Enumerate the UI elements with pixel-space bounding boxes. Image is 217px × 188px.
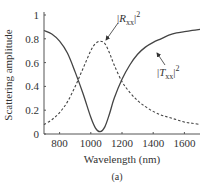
x-tick-label: 1600 <box>173 137 196 149</box>
y-tick-label: 0.2 <box>25 104 39 116</box>
figure-caption: (a) <box>111 171 122 183</box>
y-tick-label: 0 <box>34 128 40 140</box>
t-xx-annotation-label: |Txx|2 <box>157 64 180 81</box>
t-xx-annotation-arrow <box>157 53 165 65</box>
y-tick-label: 0.6 <box>25 57 39 69</box>
annotations: |Rxx|2|Txx|2 <box>106 10 180 81</box>
y-tick-label: 1 <box>34 9 40 21</box>
r-xx-annotation-label: |Rxx|2 <box>117 10 140 27</box>
x-tick-label: 1000 <box>80 137 103 149</box>
x-tick-label: 1400 <box>142 137 165 149</box>
series-layer <box>44 29 200 131</box>
y-tick-label: 0.8 <box>25 33 39 45</box>
x-axis-title: Wavelength (nm) <box>84 153 161 166</box>
series-t-xx-solid-line <box>44 29 200 131</box>
y-tick-label: 0.4 <box>25 80 39 92</box>
axes <box>44 12 200 134</box>
x-tick-label: 800 <box>51 137 68 149</box>
scattering-amplitude-chart: 800100012001400160000.20.40.60.81 |Rxx|2… <box>0 0 217 188</box>
r-xx-annotation-arrow <box>106 23 118 40</box>
y-axis-title: Scattering amplitude <box>2 29 14 120</box>
x-tick-label: 1200 <box>111 137 134 149</box>
